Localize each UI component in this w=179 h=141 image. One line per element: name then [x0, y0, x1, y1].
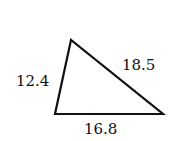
triangle-shape	[55, 40, 163, 114]
side-label-left: 12.4	[16, 72, 49, 90]
side-label-right: 18.5	[122, 56, 155, 74]
triangle-diagram: 12.4 18.5 16.8	[0, 0, 179, 141]
side-label-bottom: 16.8	[84, 120, 117, 138]
